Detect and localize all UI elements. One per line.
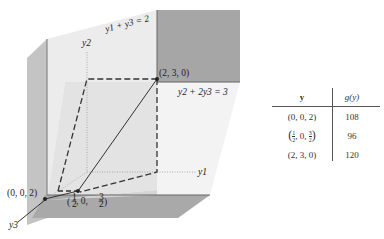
objective-table: y g(y) (0, 0, 2) 108 (12, 0, 32) 96 ← (2… bbox=[272, 88, 380, 164]
y2-axis-label: y2 bbox=[81, 38, 91, 48]
cell-y: (0, 0, 2) bbox=[272, 112, 332, 122]
svg-text:): ) bbox=[104, 197, 107, 208]
cell-g: 108 bbox=[332, 112, 372, 122]
point-label-2-3-0: (2, 3, 0) bbox=[159, 68, 189, 79]
cell-g: 120 bbox=[332, 150, 372, 160]
table-header: y g(y) bbox=[272, 88, 380, 107]
floor-face bbox=[32, 195, 210, 218]
y1-axis-label: y1 bbox=[197, 167, 207, 177]
header-y: y bbox=[272, 92, 332, 102]
table-row: (12, 0, 32) 96 ← bbox=[272, 126, 380, 145]
y3-axis-label: y3 bbox=[8, 220, 18, 230]
header-g: g(y) bbox=[332, 92, 372, 102]
constraint-label-2: y2 + 2y3 = 3 bbox=[177, 87, 228, 97]
plane-y2-2y3-face bbox=[157, 82, 240, 195]
cell-y: (2, 3, 0) bbox=[272, 150, 332, 160]
svg-text:(: ( bbox=[67, 197, 70, 208]
table-row: (2, 3, 0) 120 bbox=[272, 145, 380, 164]
cell-y: (12, 0, 32) bbox=[272, 128, 332, 143]
inner-face bbox=[47, 82, 157, 200]
svg-text:, 0,: , 0, bbox=[76, 196, 88, 206]
table-row: (0, 0, 2) 108 bbox=[272, 107, 380, 126]
point-label-0-0-2: (0, 0, 2) bbox=[7, 188, 37, 199]
point-0-0-2 bbox=[43, 197, 47, 201]
cell-g: 96 bbox=[332, 131, 372, 141]
